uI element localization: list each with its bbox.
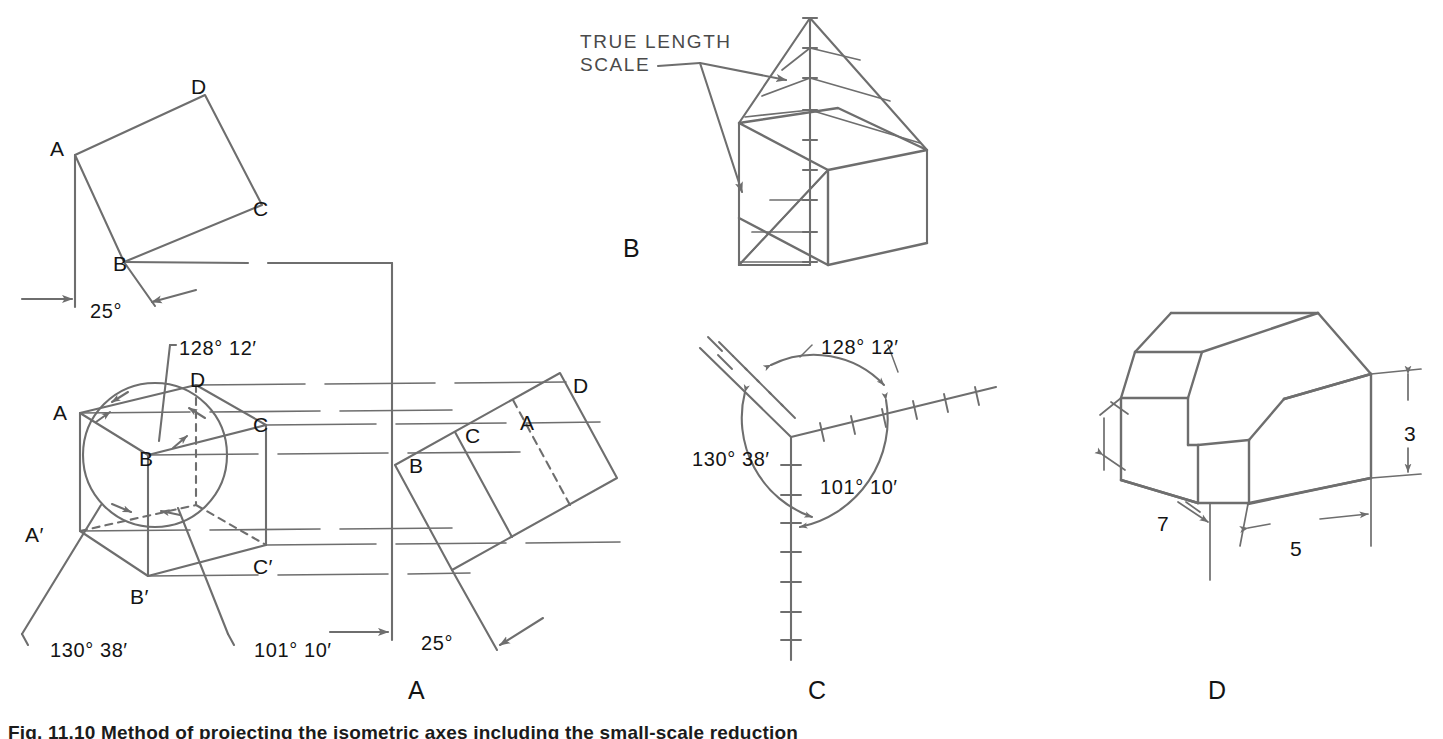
panel-a-aux-vertex-c: C <box>465 425 481 446</box>
panel-d-dim-depth: 7 <box>1157 513 1169 534</box>
panel-d-dim-width: 5 <box>1290 538 1302 559</box>
panel-a-top-angle-25: 25° <box>90 301 122 321</box>
panel-a-angle-101-10: 101° 10′ <box>254 640 332 660</box>
panel-a-cube-vertex-b: B <box>139 448 153 469</box>
panel-d-block <box>1121 310 1371 504</box>
panel-a-cube-vertex-c-prime: C′ <box>253 556 273 577</box>
technical-drawing-canvas <box>0 0 1443 739</box>
panel-d-dimensions <box>1100 369 1421 580</box>
panel-a-angle-130-38: 130° 38′ <box>50 640 128 660</box>
panel-label-d: D <box>1208 678 1226 703</box>
panel-a-aux-angle-25: 25° <box>421 633 453 653</box>
panel-label-c: C <box>808 678 826 703</box>
figure-caption: Fig. 11.10 Method of projecting the isom… <box>8 722 1428 739</box>
figure-page: A B C D 25° A B C D A′ B′ C′ 128° 12′ 13… <box>0 0 1443 739</box>
panel-c-angle-128-12: 128° 12′ <box>821 337 899 357</box>
panel-d-dim-height: 3 <box>1404 423 1416 444</box>
true-length-scale-annotation: TRUE LENGTH SCALE <box>580 30 732 76</box>
panel-a-cube-vertex-d: D <box>190 369 206 390</box>
panel-a-top-vertex-d: D <box>191 76 207 97</box>
true-length-scale-line1: TRUE LENGTH <box>580 30 732 53</box>
panel-a-aux-vertex-b: B <box>409 455 423 476</box>
panel-a-top-vertex-c: C <box>253 198 269 219</box>
panel-a-top-vertex-a: A <box>50 138 64 159</box>
panel-a-cube-vertex-b-prime: B′ <box>130 586 149 607</box>
true-length-scale-line2: SCALE <box>580 53 732 76</box>
panel-a-auxiliary-box <box>330 373 617 650</box>
panel-label-b: B <box>623 236 640 261</box>
panel-label-a: A <box>408 678 425 703</box>
panel-c-angle-130-38: 130° 38′ <box>692 449 770 469</box>
panel-c-axes <box>700 337 996 660</box>
panel-c-angle-101-10: 101° 10′ <box>820 477 898 497</box>
panel-a-aux-vertex-d: D <box>573 375 589 396</box>
panel-a-cube-vertex-a: A <box>53 402 67 423</box>
panel-a-angle-128-12: 128° 12′ <box>179 338 257 358</box>
panel-a-projection-lines <box>80 382 620 576</box>
panel-a-cube-vertex-a-prime: A′ <box>25 524 44 545</box>
panel-a-top-square <box>22 95 392 640</box>
panel-a-cube-vertex-c: C <box>253 414 269 435</box>
panel-a-aux-vertex-a: A <box>520 412 534 433</box>
panel-a-top-vertex-b: B <box>113 253 127 274</box>
